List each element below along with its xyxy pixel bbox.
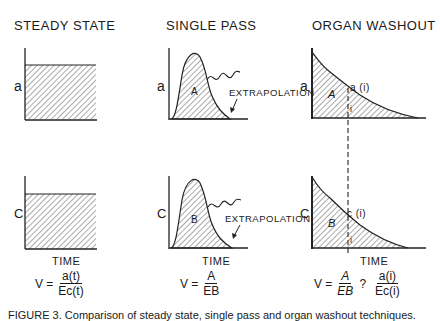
ylabel-single-top: a: [157, 78, 165, 94]
area-label-a: A: [191, 86, 198, 97]
ylabel-single-bottom: C: [157, 206, 167, 221]
equation-single-pass: V = AEB: [180, 270, 221, 298]
point-label-c-i: c (i): [347, 208, 366, 219]
title-single-pass: SINGLE PASS: [166, 18, 257, 33]
area-label-b: B: [191, 214, 198, 225]
washout-area-label-a: A: [328, 88, 336, 100]
xlabel-steady: TIME: [52, 255, 80, 267]
equation-steady-state: V = a(t)Ec(t): [35, 270, 86, 298]
single-pass-top-plot: [169, 48, 248, 120]
point-label-a-i: a (i): [350, 82, 370, 93]
ylabel-steady-bottom: C: [14, 206, 24, 221]
figure-caption: FIGURE 3. Comparison of steady state, si…: [8, 309, 416, 321]
index-label-bottom: i: [350, 235, 353, 245]
index-label-top: i: [350, 104, 353, 114]
ylabel-steady-top: a: [14, 78, 22, 94]
organ-washout-bottom-plot: [312, 176, 426, 249]
extrapolation-label-top: EXTRAPOLATION: [229, 87, 315, 98]
steady-state-top-plot: [25, 48, 97, 120]
title-organ-washout: ORGAN WASHOUT: [312, 18, 436, 33]
xlabel-washout: TIME: [360, 255, 388, 267]
steady-state-bottom-plot: [25, 176, 97, 249]
equation-organ-washout: V = AEB ? a(i)Ec(i): [314, 270, 402, 298]
washout-area-label-b: B: [328, 217, 336, 229]
xlabel-single: TIME: [202, 255, 230, 267]
extrapolation-label-bottom: EXTRAPOLATION: [225, 213, 311, 224]
title-steady-state: STEADY STATE: [14, 18, 115, 33]
